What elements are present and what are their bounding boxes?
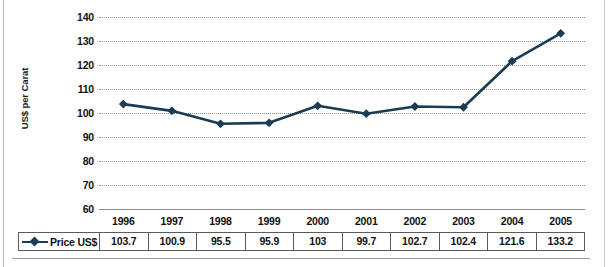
y-tick-label-110: 110	[62, 84, 94, 94]
data-point-2001	[362, 109, 371, 118]
x-tick-label-1999: 1999	[245, 211, 294, 232]
x-tick-label-2005: 2005	[536, 211, 585, 232]
legend-label: Price US$	[48, 236, 97, 248]
y-tick-label-140: 140	[62, 12, 94, 22]
data-point-2002	[411, 102, 420, 111]
data-table: Price US$ 103.7 100.9 95.5 95.9 103 99.7…	[18, 232, 585, 251]
data-point-2000	[313, 101, 322, 110]
x-tick-label-1997: 1997	[148, 211, 197, 232]
x-axis-labels: 1996 1997 1998 1999 2000 2001 2002 2003 …	[99, 211, 585, 232]
x-tick-label-2001: 2001	[342, 211, 391, 232]
y-tick-label-80: 80	[62, 156, 94, 166]
legend-entry-price: Price US$	[19, 233, 100, 250]
line-chart: US$ per Carat 140 130 120 110 100 90 80 …	[0, 0, 610, 212]
x-tick-label-2004: 2004	[488, 211, 537, 232]
data-point-1998	[216, 119, 225, 128]
y-tick-label-120: 120	[62, 60, 94, 70]
y-tick-label-60: 60	[62, 204, 94, 214]
y-tick-label-70: 70	[62, 180, 94, 190]
y-axis-title: US$ per Carat	[19, 44, 30, 154]
table-cell-2004: 121.6	[488, 233, 537, 250]
legend-line-diamond-icon	[22, 236, 48, 247]
x-tick-label-2002: 2002	[391, 211, 440, 232]
data-point-1997	[168, 106, 177, 115]
table-cell-2002: 102.7	[391, 233, 440, 250]
price-series-line	[123, 33, 560, 123]
y-tick-label-130: 130	[62, 36, 94, 46]
data-point-1996	[119, 100, 128, 109]
x-tick-label-1996: 1996	[99, 211, 148, 232]
table-cell-1999: 95.9	[246, 233, 295, 250]
x-tick-label-1998: 1998	[196, 211, 245, 232]
chart-screenshot: US$ per Carat 140 130 120 110 100 90 80 …	[0, 0, 610, 267]
y-tick-label-90: 90	[62, 132, 94, 142]
data-point-1999	[265, 118, 274, 127]
table-cell-2005: 133.2	[537, 233, 585, 250]
table-cell-1998: 95.5	[197, 233, 246, 250]
y-tick-label-100: 100	[62, 108, 94, 118]
x-tick-label-2003: 2003	[439, 211, 488, 232]
table-cell-1996: 103.7	[100, 233, 149, 250]
table-cell-2001: 99.7	[343, 233, 392, 250]
table-cell-2000: 103	[294, 233, 343, 250]
page-bottom-rule	[12, 258, 590, 259]
table-cell-2003: 102.4	[440, 233, 489, 250]
series-plot	[99, 0, 585, 212]
table-cell-1997: 100.9	[149, 233, 198, 250]
x-tick-label-2000: 2000	[293, 211, 342, 232]
